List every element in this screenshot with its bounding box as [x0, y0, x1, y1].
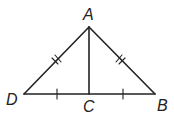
label-B: B	[157, 97, 168, 114]
label-A: A	[82, 6, 94, 23]
label-C: C	[83, 98, 95, 114]
label-D: D	[6, 91, 18, 108]
segment-AD	[24, 27, 89, 94]
triangle-diagram: A D C B	[0, 0, 174, 114]
